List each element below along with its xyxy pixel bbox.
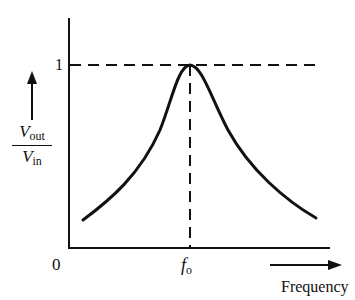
- origin-label: 0: [52, 256, 61, 273]
- v-in-main: V: [22, 147, 32, 166]
- y-arrowhead-icon: [27, 71, 37, 84]
- v-out-sub: out: [30, 129, 45, 143]
- y-label-numerator: Vout: [12, 122, 52, 146]
- v-in-sub: in: [33, 154, 42, 168]
- chart-figure: 1 0 fo Frequency Vout Vin: [0, 0, 355, 300]
- x-axis-label: Frequency: [281, 279, 349, 295]
- y-axis-label: Vout Vin: [12, 122, 52, 169]
- x-arrowhead-icon: [328, 260, 342, 270]
- y-label-denominator: Vin: [12, 146, 52, 169]
- fo-tick-label: fo: [181, 256, 192, 276]
- response-curve: [83, 65, 316, 220]
- fo-sub: o: [186, 263, 192, 277]
- v-out-main: V: [19, 122, 29, 141]
- y-tick-1: 1: [55, 57, 63, 73]
